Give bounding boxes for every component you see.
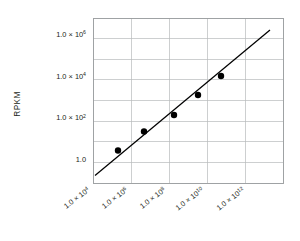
y-tick-label: 1.0 × 102 bbox=[56, 113, 86, 123]
data-point bbox=[171, 112, 177, 118]
y-tick-label: 1.0 × 104 bbox=[56, 71, 86, 81]
data-point bbox=[141, 128, 147, 134]
y-tick-label: 1.0 × 106 bbox=[56, 29, 86, 39]
chart-canvas: 1.0 × 106 1.0 × 104 1.0 × 102 1.0 1.0 × … bbox=[0, 0, 300, 241]
rpkm-log-log-scatter-chart: 1.0 × 106 1.0 × 104 1.0 × 102 1.0 1.0 × … bbox=[0, 0, 300, 241]
data-point bbox=[195, 92, 201, 98]
y-axis-title: RPKM bbox=[13, 91, 22, 116]
y-tick-label: 1.0 bbox=[76, 155, 86, 164]
y-axis-title-group: RPKM bbox=[13, 91, 22, 116]
data-point bbox=[115, 147, 121, 153]
data-point bbox=[218, 73, 224, 79]
